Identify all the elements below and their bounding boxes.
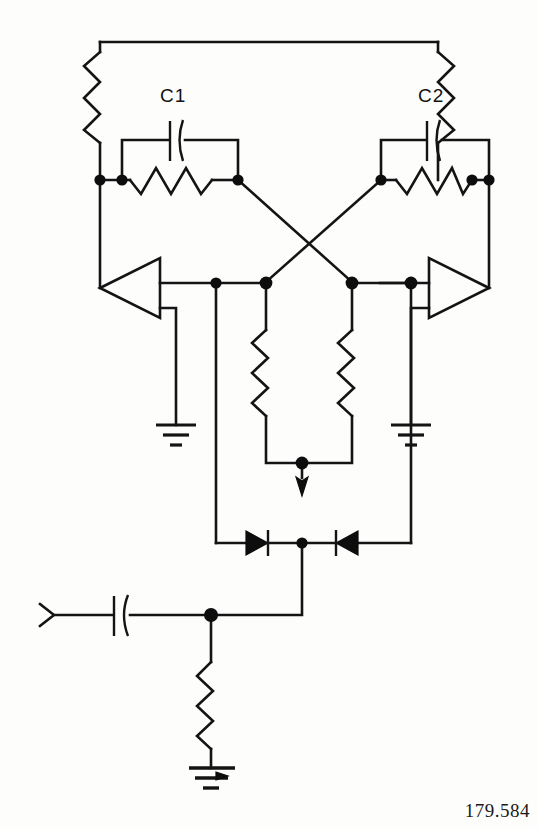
antenna-icon <box>40 604 112 626</box>
center-left-resistor <box>252 283 302 463</box>
node <box>375 174 386 185</box>
right-amplifier <box>380 180 489 425</box>
node <box>296 537 307 548</box>
center-right-resistor <box>302 283 354 463</box>
bottom-bias-resistor <box>197 615 213 768</box>
diode-feed-wires <box>216 283 411 543</box>
left-ground <box>156 425 196 445</box>
figure-number: 179.584 <box>465 800 530 822</box>
node <box>232 174 243 185</box>
node <box>116 174 127 185</box>
node <box>346 277 359 290</box>
cross-coupling-wires <box>238 180 381 282</box>
node <box>296 457 309 470</box>
capacitor-c2: C2 <box>381 85 489 180</box>
capacitor-c1-label: C1 <box>160 85 186 106</box>
left-vertical-resistor <box>84 42 100 180</box>
right-diode <box>302 530 358 556</box>
left-amplifier <box>100 180 216 425</box>
node <box>204 608 218 622</box>
figure-page: C1 C2 <box>0 0 538 828</box>
junction-nodes <box>94 174 494 622</box>
left-diode <box>246 530 302 556</box>
circuit-schematic: C1 C2 <box>0 0 538 828</box>
node <box>466 174 477 185</box>
node <box>483 174 494 185</box>
node <box>210 277 221 288</box>
detector-output-wire <box>211 543 302 615</box>
node <box>405 277 418 290</box>
node <box>260 277 273 290</box>
bottom-ground <box>189 768 235 788</box>
node <box>94 174 105 185</box>
input-coupling-capacitor <box>114 595 211 636</box>
capacitor-c1: C1 <box>122 85 238 180</box>
capacitor-c2-label: C2 <box>418 85 444 106</box>
